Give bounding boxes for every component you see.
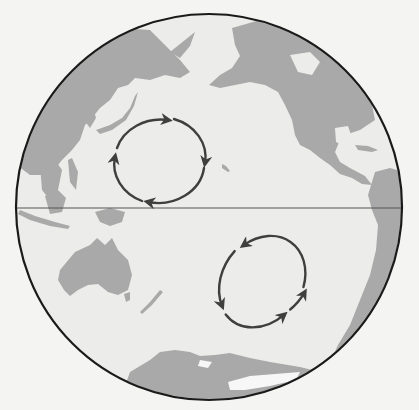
globe-diagram: Pacific Ocean gyres on globe bbox=[0, 0, 419, 410]
